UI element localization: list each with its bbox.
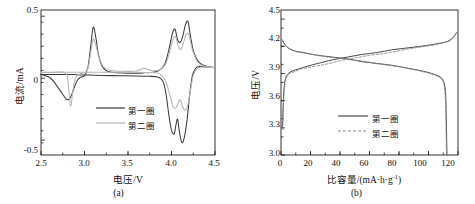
- panel-b-svg: [238, 0, 475, 204]
- curve-第一圈-放电: [282, 40, 446, 155]
- panel-a-cv-chart: 电流/mA 0.5 0 -0.5 2.5 3.0 3.5 4.0 4.5 电压/…: [0, 0, 237, 204]
- curve-第二圈-放电: [283, 41, 447, 155]
- panel-b-legend-swatches: [338, 116, 368, 131]
- panel-a-data-curves: [41, 21, 215, 143]
- panel-a-axes: [41, 10, 215, 155]
- figure-container: 电流/mA 0.5 0 -0.5 2.5 3.0 3.5 4.0 4.5 电压/…: [0, 0, 475, 204]
- panel-b-tick-marks: [281, 19, 458, 155]
- panel-a-legend-swatches: [96, 108, 125, 123]
- panel-a-svg: [0, 0, 237, 204]
- panel-a-tick-marks: [41, 16, 215, 155]
- curve-第一圈-充电: [282, 33, 456, 128]
- panel-b-axes: [281, 10, 458, 155]
- panel-b-data-curves: [282, 33, 456, 155]
- curve-第一圈: [41, 21, 215, 100]
- curve-第二圈-充电: [283, 34, 456, 130]
- panel-a-plot-frame: [41, 10, 215, 155]
- panel-b-charge-discharge-chart: 电压/V 4.5 4.2 3.9 3.6 3.3 3.0 0 20 40 60 …: [238, 0, 475, 204]
- panel-b-plot-frame: [281, 10, 458, 155]
- curve-第二圈: [41, 33, 215, 106]
